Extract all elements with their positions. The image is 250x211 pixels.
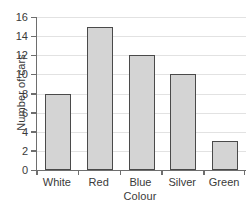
y-axis-tick-label: 12 — [16, 49, 28, 61]
x-axis-category-label: Silver — [161, 174, 203, 190]
y-axis-tick-label: 10 — [16, 68, 28, 80]
y-axis-tick-label: 6 — [22, 107, 28, 119]
bar — [129, 55, 155, 170]
y-axis-tick: 14 — [0, 30, 36, 42]
bar — [45, 94, 71, 171]
x-axis-category-label: Blue — [120, 174, 162, 190]
y-axis-tick-label: 8 — [22, 88, 28, 100]
y-axis-tick: 4 — [0, 126, 36, 138]
y-axis-tick: 16 — [0, 11, 36, 23]
y-axis-tick-label: 16 — [16, 11, 28, 23]
y-axis-tick: 2 — [0, 145, 36, 157]
plot-area — [36, 17, 246, 171]
x-axis-labels: WhiteRedBlueSilverGreen — [36, 174, 245, 190]
y-axis-tick: 12 — [0, 49, 36, 61]
y-axis-tick-label: 2 — [22, 145, 28, 157]
y-axis-tick-label: 0 — [22, 164, 28, 176]
y-axis-tick: 0 — [0, 164, 36, 176]
y-axis-tick-label: 4 — [22, 126, 28, 138]
x-axis-category-label: White — [36, 174, 78, 190]
bars-layer — [37, 17, 246, 170]
y-axis-tick: 10 — [0, 68, 36, 80]
x-axis-category-label: Green — [203, 174, 245, 190]
bar-chart: Number of cars 0246810121416 WhiteRedBlu… — [0, 0, 250, 211]
x-axis-category-label: Red — [78, 174, 120, 190]
y-axis-tick: 8 — [0, 88, 36, 100]
y-axis-tick-label: 14 — [16, 30, 28, 42]
bar — [170, 74, 196, 170]
bar — [212, 141, 238, 170]
x-axis-title: Colour — [36, 190, 244, 202]
bar — [87, 27, 113, 170]
y-axis-tick: 6 — [0, 107, 36, 119]
y-axis-ticks: 0246810121416 — [0, 17, 36, 170]
